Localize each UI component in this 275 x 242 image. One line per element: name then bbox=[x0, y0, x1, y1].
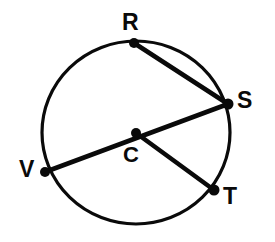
point-r-dot bbox=[129, 38, 139, 48]
point-label-s: S bbox=[237, 89, 252, 112]
radius-ct-segment bbox=[136, 133, 214, 190]
circle-diagram-figure: R S C V T bbox=[0, 0, 275, 242]
point-label-t: T bbox=[223, 185, 237, 208]
point-t-dot bbox=[209, 185, 220, 196]
point-label-v: V bbox=[19, 158, 34, 181]
point-c-dot bbox=[131, 128, 141, 138]
point-label-c: C bbox=[123, 143, 139, 166]
point-label-r: R bbox=[122, 11, 139, 34]
point-s-dot bbox=[223, 99, 234, 110]
point-v-dot bbox=[40, 167, 50, 177]
